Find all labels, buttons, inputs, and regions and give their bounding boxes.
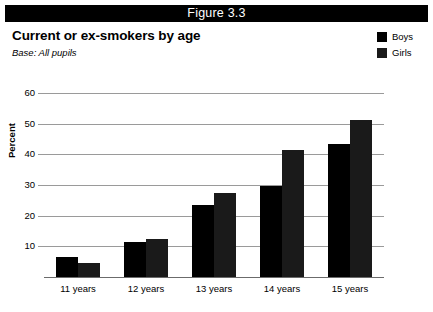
bar-girls-4 [282,150,304,277]
y-tick-label-30: 30 [24,180,35,190]
legend-item-girls: Girls [377,46,429,59]
y-tick-label-60: 60 [24,88,35,98]
legend-swatch-girls [377,48,387,58]
bar-group-4: 14 years [248,93,316,277]
x-tick-label-5: 15 years [316,277,384,294]
bar-boys-4 [260,186,282,277]
chart-legend: BoysGirls [377,30,429,62]
legend-swatch-boys [377,32,387,42]
legend-label: Girls [392,48,412,58]
bar-group-3: 13 years [180,93,248,277]
bar-girls-5 [350,120,372,277]
y-tick-label-10: 10 [24,242,35,252]
x-tick-label-1: 11 years [44,277,112,294]
y-axis-title: Percent [6,123,17,158]
bar-girls-1 [78,263,100,277]
bar-boys-1 [56,257,78,277]
x-axis-line [44,277,384,278]
chart-base-note: Base: All pupils [12,47,77,58]
bar-girls-2 [146,239,168,277]
legend-item-boys: Boys [377,30,429,43]
legend-label: Boys [392,32,413,42]
x-tick-label-4: 14 years [248,277,316,294]
plot-area: 102030405060 11 years12 years13 years14 … [44,93,384,277]
bar-boys-3 [192,205,214,277]
y-tick-label-20: 20 [24,211,35,221]
page-title: Current or ex-smokers by age [12,28,201,43]
x-tick-label-2: 12 years [112,277,180,294]
bar-group-1: 11 years [44,93,112,277]
bar-group-5: 15 years [316,93,384,277]
figure-banner: Figure 3.3 [5,5,428,22]
x-tick-label-3: 13 years [180,277,248,294]
y-tick-label-40: 40 [24,150,35,160]
bar-boys-5 [328,144,350,277]
bar-boys-2 [124,242,146,277]
bar-group-2: 12 years [112,93,180,277]
bar-girls-3 [214,193,236,277]
y-tick-label-50: 50 [24,119,35,129]
bar-groups: 11 years12 years13 years14 years15 years [44,93,384,277]
